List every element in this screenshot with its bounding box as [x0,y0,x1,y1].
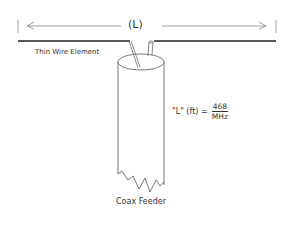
coax-cable [118,54,164,192]
formula-numerator: 468 [212,102,228,112]
dipole-diagram [0,0,301,225]
formula-lhs: "L" (ft) = [172,107,208,116]
dimension-line [18,20,276,33]
length-label: (L) [128,18,143,31]
formula-fraction: 468 MHz [212,102,228,121]
length-formula: "L" (ft) = 468 MHz [172,102,228,121]
formula-denominator: MHz [212,112,228,121]
wire-element-label: Thin Wire Element [35,48,99,56]
coax-feeder-label: Coax Feeder [116,197,166,206]
